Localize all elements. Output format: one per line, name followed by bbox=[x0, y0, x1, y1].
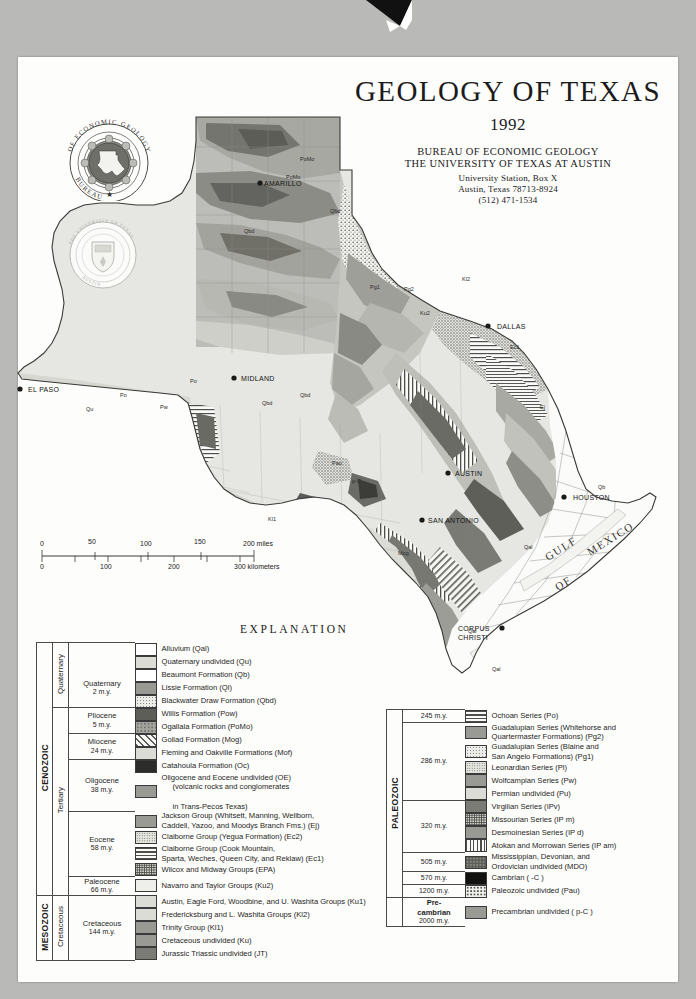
legend-epoch-boundary: 5 m.y. bbox=[69, 721, 135, 730]
scale-miles-200: 200 miles bbox=[243, 540, 273, 547]
legend-swatch bbox=[135, 669, 157, 682]
legend-swatch-cell bbox=[135, 773, 162, 812]
legend-unit-sublabel: in Trans-Pecos Texas) bbox=[162, 802, 366, 812]
legend-row: Oligocene38 m.y.Catahoula Formation (Oc) bbox=[37, 760, 366, 773]
svg-text:Mog: Mog bbox=[398, 550, 409, 556]
scale-km-300: 300 kilometers bbox=[234, 563, 280, 570]
legend-epoch: Oligocene38 m.y. bbox=[69, 760, 136, 812]
legend-swatch bbox=[135, 831, 157, 844]
legend-swatch-cell bbox=[465, 898, 492, 927]
legend-unit-label: Blackwater Draw Formation (Qbd) bbox=[162, 695, 366, 708]
legend-epoch: 286 m.y. bbox=[403, 723, 466, 801]
legend-unit-label: Willis Formation (Pow) bbox=[162, 708, 366, 721]
svg-text:Qbd: Qbd bbox=[244, 228, 254, 234]
legend-swatch-cell bbox=[135, 831, 162, 844]
legend-unit-label: Missourian Series (IP m) bbox=[492, 813, 617, 826]
address-line-2: Austin, Texas 78713-8924 bbox=[348, 184, 668, 194]
city-dot bbox=[561, 494, 566, 499]
legend-row: PALEOZOIC245 m.y.Ochoan Series (Po) bbox=[387, 710, 617, 723]
legend-swatch-cell bbox=[465, 852, 492, 871]
city-dot bbox=[231, 375, 236, 380]
legend-row: 320 m.y.Virgilian Series (IPv) bbox=[387, 800, 617, 813]
legend-swatch-cell bbox=[135, 863, 162, 876]
legend-unit-label: Leonardian Series (Pl) bbox=[492, 761, 617, 774]
legend-epoch-boundary: 2 m.y. bbox=[69, 688, 135, 697]
legend-epoch-boundary: 144 m.y. bbox=[69, 928, 135, 937]
city-label: HOUSTON bbox=[573, 494, 610, 501]
legend-swatch-cell bbox=[135, 747, 162, 760]
legend-era-mesozoic: MESOZOIC bbox=[37, 895, 53, 960]
legend-swatch-cell bbox=[135, 921, 162, 934]
legend-epoch-boundary: 320 m.y. bbox=[403, 822, 465, 831]
svg-text:PoMo: PoMo bbox=[286, 174, 300, 180]
legend-swatch bbox=[135, 682, 157, 695]
legend-unit-label: Claiborne Group (Cook Mountain,Sparta, W… bbox=[162, 844, 366, 863]
legend-epoch-name: Eocene bbox=[69, 835, 135, 844]
legend-swatch bbox=[465, 726, 487, 739]
city-dot bbox=[17, 386, 22, 391]
legend-swatch bbox=[135, 847, 157, 860]
legend-epoch-boundary: 58 m.y. bbox=[69, 844, 135, 853]
legend-unit-label: Jackson Group (Whitsett, Manning, Wellbo… bbox=[162, 811, 366, 830]
legend-unit-label: Cretaceous undivided (Ku) bbox=[162, 934, 366, 947]
legend-swatch-cell bbox=[465, 826, 492, 839]
legend-era-blank bbox=[387, 898, 403, 927]
map-sheet: AMARILLOEL PASOMIDLANDDALLASAUSTINSAN AN… bbox=[18, 57, 678, 982]
legend-unit-sublabel: Sparta, Weches, Queen City, and Reklaw) … bbox=[162, 854, 324, 863]
legend-unit-label: Wilcox and Midway Groups (EPA) bbox=[162, 863, 366, 876]
legend-swatch-cell bbox=[135, 844, 162, 863]
legend-epoch-boundary: 38 m.y. bbox=[69, 786, 135, 795]
scale-miles-150: 150 bbox=[194, 538, 206, 545]
legend-swatch bbox=[135, 908, 157, 921]
legend-unit-label: Oligocene and Eocene undivided (OE)(volc… bbox=[162, 773, 366, 812]
scale-bar: 0 50 100 150 200 miles 0 100 200 300 kil… bbox=[38, 536, 270, 576]
page-title: GEOLOGY OF TEXAS bbox=[348, 77, 668, 106]
legend-unit-label: Ogallala Formation (PoMo) bbox=[162, 721, 366, 734]
legend-epoch-boundary: 24 m.y. bbox=[69, 747, 135, 756]
legend-cenozoic-mesozoic: CENOZOICQuaternaryQuaternary2 m.y.Alluvi… bbox=[36, 642, 366, 961]
legend-epoch-boundary: 2000 m.y. bbox=[403, 917, 465, 926]
legend-swatch bbox=[135, 760, 157, 773]
legend-swatch-cell bbox=[465, 839, 492, 852]
legend-row: Eocene58 m.y.Jackson Group (Whitsett, Ma… bbox=[37, 811, 366, 830]
legend-unit-label: Claiborne Group (Yegua Formation) (Ec2) bbox=[162, 831, 366, 844]
svg-text:Ej: Ej bbox=[540, 404, 545, 410]
legend-swatch bbox=[465, 800, 487, 813]
phone-number: (512) 471-1534 bbox=[348, 195, 668, 205]
legend-swatch bbox=[465, 826, 487, 839]
legend-swatch bbox=[465, 710, 487, 723]
legend-swatch-cell bbox=[465, 710, 492, 723]
legend-swatch-cell bbox=[135, 895, 162, 908]
svg-text:Kl1: Kl1 bbox=[268, 516, 276, 522]
city-label: AUSTIN bbox=[455, 470, 482, 477]
city-dot bbox=[499, 625, 504, 630]
legend-swatch-cell bbox=[465, 813, 492, 826]
legend-swatch-cell bbox=[465, 885, 492, 898]
legend-unit-label: Precambrian undivided ( p-C ) bbox=[492, 898, 617, 927]
legend-row: Pre-cambrian2000 m.y.Precambrian undivid… bbox=[387, 898, 617, 927]
city-dot bbox=[419, 517, 424, 522]
legend-swatch-cell bbox=[135, 708, 162, 721]
legend-epoch-name: Paleocene bbox=[69, 877, 135, 886]
legend-row: 286 m.y.Guadalupian Series (Whitehorse a… bbox=[387, 723, 617, 742]
title-block: GEOLOGY OF TEXAS 1992 BUREAU OF ECONOMIC… bbox=[348, 77, 668, 205]
legend-swatch-cell bbox=[465, 800, 492, 813]
legend-unit-sublabel: (volcanic rocks and conglomerates bbox=[162, 782, 366, 792]
legend-swatch bbox=[465, 761, 487, 774]
legend-unit-label: Virgilian Series (IPv) bbox=[492, 800, 617, 813]
legend-epoch-boundary: 505 m.y. bbox=[403, 858, 465, 867]
legend-unit-sublabel: Quartermaster Formations) (Pg2) bbox=[492, 732, 604, 741]
legend-swatch-cell bbox=[465, 723, 492, 742]
legend-swatch bbox=[135, 947, 157, 960]
legend-epoch-name: Pliocene bbox=[69, 711, 135, 720]
scale-km-200: 200 bbox=[168, 563, 180, 570]
legend-unit-label: Permian undivided (Pu) bbox=[492, 787, 617, 800]
legend-system: Cretaceous bbox=[53, 895, 69, 960]
svg-text:Pau: Pau bbox=[332, 460, 342, 466]
legend-unit-label: Catahoula Formation (Oc) bbox=[162, 760, 366, 773]
legend-swatch bbox=[135, 734, 157, 747]
svg-text:Ec1: Ec1 bbox=[510, 344, 519, 350]
legend-row: 570 m.y.Cambrian ( -C ) bbox=[387, 872, 617, 885]
city-dot bbox=[257, 180, 262, 185]
city-label: DALLAS bbox=[497, 323, 526, 330]
